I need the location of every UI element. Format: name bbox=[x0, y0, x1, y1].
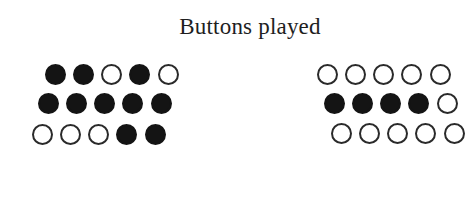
empty-circle-icon bbox=[60, 124, 81, 145]
filled-circle-icon bbox=[116, 124, 137, 145]
empty-circle-icon bbox=[387, 123, 408, 144]
empty-circle-icon bbox=[415, 123, 436, 144]
filled-circle-icon bbox=[45, 64, 66, 85]
filled-circle-icon bbox=[66, 93, 87, 114]
empty-circle-icon bbox=[401, 64, 422, 85]
empty-circle-icon bbox=[373, 64, 394, 85]
filled-circle-icon bbox=[129, 64, 150, 85]
empty-circle-icon bbox=[317, 64, 338, 85]
filled-circle-icon bbox=[122, 93, 143, 114]
filled-circle-icon bbox=[38, 93, 59, 114]
empty-circle-icon bbox=[359, 123, 380, 144]
empty-circle-icon bbox=[331, 123, 352, 144]
empty-circle-icon bbox=[101, 64, 122, 85]
empty-circle-icon bbox=[430, 64, 451, 85]
empty-circle-icon bbox=[88, 124, 109, 145]
empty-circle-icon bbox=[444, 123, 465, 144]
empty-circle-icon bbox=[32, 124, 53, 145]
filled-circle-icon bbox=[145, 124, 166, 145]
filled-circle-icon bbox=[151, 93, 172, 114]
diagram-title: Buttons played bbox=[0, 14, 472, 40]
filled-circle-icon bbox=[352, 93, 373, 114]
filled-circle-icon bbox=[94, 93, 115, 114]
empty-circle-icon bbox=[437, 93, 458, 114]
filled-circle-icon bbox=[408, 93, 429, 114]
empty-circle-icon bbox=[158, 64, 179, 85]
filled-circle-icon bbox=[324, 93, 345, 114]
empty-circle-icon bbox=[345, 64, 366, 85]
filled-circle-icon bbox=[73, 64, 94, 85]
filled-circle-icon bbox=[380, 93, 401, 114]
